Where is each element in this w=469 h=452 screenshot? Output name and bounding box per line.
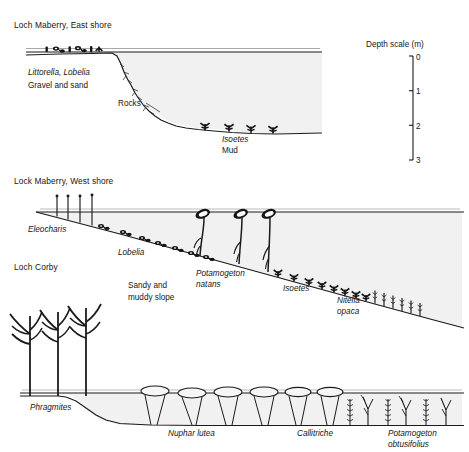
depth-tick-label-0: 0: [416, 53, 421, 62]
label-potamogeton-natans-line1: Potamogeton: [196, 269, 245, 278]
label-isoetes-west: Isoetes: [283, 284, 309, 293]
label-rocks: Rocks: [118, 99, 141, 108]
label-lobelia-west: Lobelia: [118, 248, 145, 257]
depth-tick-label-1: 1: [416, 87, 421, 96]
depth-scale-title: Depth scale (m): [366, 40, 424, 49]
label-gravel-and-sand: Gravel and sand: [28, 81, 89, 90]
label-muddy-slope-line2: muddy slope: [128, 293, 175, 302]
label-sandy-and-line1: Sandy and: [128, 281, 168, 290]
label-eleocharis: Eleocharis: [28, 225, 66, 234]
label-nuphar-lutea: Nuphar lutea: [168, 429, 215, 438]
lake-transect-figure: Loch Maberry, East shore: [0, 0, 469, 452]
label-nitella-line1: Nitella: [337, 296, 360, 305]
panel-title-east: Loch Maberry, East shore: [14, 20, 112, 30]
label-potamogeton-natans-line2: natans: [196, 280, 221, 289]
label-mud: Mud: [222, 146, 238, 155]
label-potamogeton-obtusifolius-line2: obtusifolius: [388, 440, 429, 449]
label-phragmites: Phragmites: [30, 403, 71, 412]
figure-canvas: Loch Maberry, East shore: [0, 0, 469, 452]
label-callitriche: Callitriche: [297, 429, 333, 438]
label-potamogeton-obtusifolius-line1: Potamogeton: [388, 429, 437, 438]
label-nitella-line2: opaca: [337, 307, 360, 316]
depth-tick-label-2: 2: [416, 122, 421, 131]
label-littorella-lobelia: Littorella, Lobelia: [28, 68, 90, 77]
label-isoetes-east: Isoetes: [222, 135, 248, 144]
panel-title-corby: Loch Corby: [14, 262, 59, 272]
depth-tick-label-3: 3: [416, 156, 421, 165]
panel-title-west: Lock Maberry, West shore: [14, 176, 114, 186]
